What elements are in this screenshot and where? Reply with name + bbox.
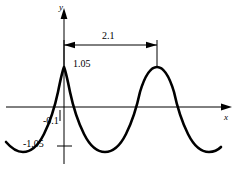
y-axis [61,8,68,164]
y-axis-label: y [59,3,63,12]
x-axis [6,104,232,111]
peak-value-label: 1.05 [73,59,91,69]
sinusoid-figure: y x 1.05 -0.1 -1.05 2.1 [0,0,242,169]
trough-value-label: -1.05 [23,139,44,149]
period-value-label: 2.1 [100,31,117,41]
x-axis-label: x [224,113,228,122]
offset-value-label: -0.1 [43,116,59,126]
